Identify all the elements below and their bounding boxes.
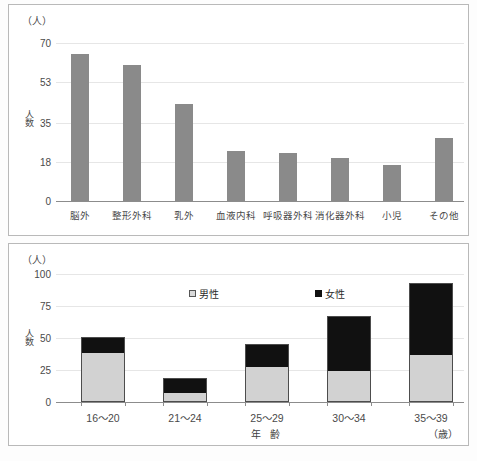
xlabel-3: 血液内科	[216, 208, 256, 222]
xlabel-5: 消化器外科	[315, 208, 365, 222]
xlabel-age-1: 21〜24	[168, 410, 201, 425]
legend-label-female: 女性	[325, 286, 345, 301]
bar-乳外	[175, 104, 193, 201]
tick-0	[81, 402, 82, 406]
xlabel-4: 呼吸器外科	[263, 208, 313, 222]
segment-male-16-20	[82, 353, 124, 401]
x-axis-line	[56, 201, 464, 202]
xlabel-age-0: 16〜20	[86, 410, 119, 425]
ytick-label-25: 25	[17, 365, 51, 376]
xlabel-2: 乳外	[174, 208, 194, 222]
legend-item-male: 男性	[189, 286, 219, 301]
bottom-chart-panel: （人） 人数 100 75 50 25 0 男性 女性	[8, 243, 469, 446]
tick-2b	[289, 402, 290, 406]
x-axis-unit-label: （歳）	[428, 426, 458, 441]
bar-脳外	[71, 54, 89, 201]
x-axis-line	[56, 402, 464, 403]
tick-2	[245, 402, 246, 406]
age-gender-stacked-bar-chart: （人） 人数 100 75 50 25 0 男性 女性	[9, 244, 468, 445]
stack-21-24	[163, 378, 207, 402]
segment-male-21-24	[164, 393, 206, 401]
segment-male-25-29	[246, 367, 288, 401]
departments-bar-chart: （人） 人数 70 53 35 18 0 脳外	[9, 5, 468, 235]
stack-25-29	[245, 344, 289, 402]
tick-3	[327, 402, 328, 406]
bar-小児	[383, 165, 401, 201]
segment-male-35-39	[410, 355, 452, 401]
ytick-label-53: 53	[21, 77, 51, 88]
ytick-label-50: 50	[17, 333, 51, 344]
bar-整形外科	[123, 65, 141, 201]
tick-0b	[125, 402, 126, 406]
gridline-35	[56, 123, 464, 124]
tick-4b	[453, 402, 454, 406]
segment-female-16-20	[82, 338, 124, 353]
bottom-chart-unit-label: （人）	[22, 252, 52, 267]
gridline-53	[56, 82, 464, 83]
ytick-label-35: 35	[21, 118, 51, 129]
legend-item-female: 女性	[315, 286, 345, 301]
legend-swatch-male-icon	[189, 290, 196, 297]
segment-male-30-34	[328, 371, 370, 401]
bar-消化器外科	[331, 158, 349, 201]
tick-3b	[371, 402, 372, 406]
bar-その他	[435, 138, 453, 201]
xlabel-6: 小児	[382, 208, 402, 222]
stack-35-39	[409, 283, 453, 402]
tick-4	[409, 402, 410, 406]
segment-female-21-24	[164, 379, 206, 393]
tick-1	[163, 402, 164, 406]
ytick-label-18: 18	[21, 157, 51, 168]
xlabel-age-2: 25〜29	[250, 410, 283, 425]
bar-呼吸器外科	[279, 153, 297, 201]
ytick-label-100: 100	[17, 269, 51, 280]
top-chart-panel: （人） 人数 70 53 35 18 0 脳外	[8, 4, 469, 236]
gridline-18	[56, 162, 464, 163]
tick-1b	[207, 402, 208, 406]
gridline-70	[56, 43, 464, 44]
segment-female-35-39	[410, 284, 452, 355]
ytick-label-0: 0	[17, 397, 51, 408]
stack-16-20	[81, 337, 125, 402]
gridline-75	[56, 306, 464, 307]
xlabel-age-4: 35〜39	[414, 410, 447, 425]
xlabel-0: 脳外	[70, 208, 90, 222]
ytick-label-0: 0	[21, 196, 51, 207]
ytick-label-75: 75	[17, 301, 51, 312]
figure-page: （人） 人数 70 53 35 18 0 脳外	[0, 0, 477, 461]
bar-血液内科	[227, 151, 245, 201]
legend-label-male: 男性	[199, 286, 219, 301]
gridline-100	[56, 274, 464, 275]
segment-female-30-34	[328, 317, 370, 371]
ytick-label-70: 70	[21, 38, 51, 49]
xlabel-age-3: 30〜34	[332, 410, 365, 425]
x-axis-title: 年 齢	[251, 426, 283, 441]
legend-swatch-female-icon	[315, 290, 322, 297]
segment-female-25-29	[246, 345, 288, 367]
xlabel-7: その他	[429, 208, 459, 222]
xlabel-1: 整形外科	[112, 208, 152, 222]
top-chart-unit-label: （人）	[22, 13, 52, 28]
stack-30-34	[327, 316, 371, 402]
